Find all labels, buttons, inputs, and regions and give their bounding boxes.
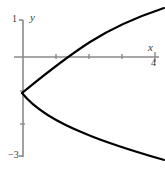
y-axis-top-tick-label: 1 [12,14,17,24]
x-axis-end-tick-label: 4 [151,58,156,68]
plot-canvas [0,0,165,169]
y-axis-bottom-tick-label: −3 [8,150,19,160]
y-axis-label: y [30,12,35,23]
parabola-upper-branch [22,8,164,93]
parabola-lower-branch [22,93,164,160]
x-axis-label: x [148,42,153,53]
parabola-figure: y x 1 −3 4 [0,0,165,169]
